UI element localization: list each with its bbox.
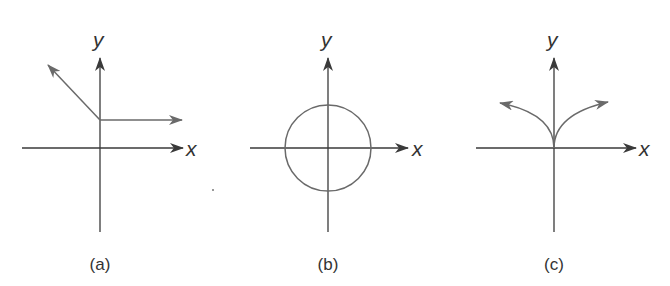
panel-a: x y (a)	[22, 28, 198, 274]
y-axis-label: y	[91, 28, 105, 51]
stray-mark	[212, 189, 214, 191]
x-axis-label: x	[185, 137, 198, 160]
x-axis-label: x	[638, 137, 651, 160]
diagonal-ray	[48, 65, 100, 120]
y-axis-label: y	[545, 28, 559, 51]
panel-b: x y (b)	[250, 28, 424, 274]
panel-caption: (c)	[544, 255, 564, 274]
x-axis-label: x	[411, 137, 424, 160]
panel-caption: (a)	[90, 255, 111, 274]
left-branch	[500, 103, 554, 148]
panel-c: x y (c)	[476, 28, 651, 274]
y-axis-label: y	[319, 28, 333, 51]
panel-caption: (b)	[318, 255, 339, 274]
right-branch	[554, 102, 608, 148]
figure-canvas: x y (a) x y (b) x y (c)	[0, 0, 670, 286]
